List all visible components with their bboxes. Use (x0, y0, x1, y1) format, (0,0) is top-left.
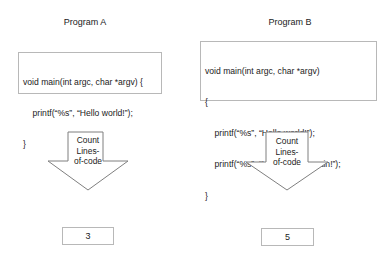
code-line: printf(“%s”, “Hello world!”); (23, 108, 157, 118)
program-a-result: 3 (62, 227, 114, 245)
count-loc-label-b: Count Lines- of-code (265, 136, 309, 168)
code-line: void main(int argc, char *argv) (205, 66, 372, 76)
program-a-title: Program A (25, 17, 145, 27)
program-b-title: Program B (230, 17, 350, 27)
program-b-code-box: void main(int argc, char *argv) { printf… (200, 41, 377, 101)
program-a-code-box: void main(int argc, char *argv) { printf… (18, 52, 162, 94)
program-b-result: 5 (261, 228, 314, 246)
code-line: void main(int argc, char *argv) { (23, 77, 157, 87)
code-line: { (205, 97, 372, 107)
count-loc-label-a: Count Lines- of-code (66, 135, 110, 167)
